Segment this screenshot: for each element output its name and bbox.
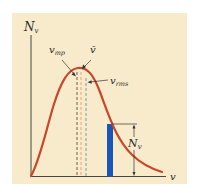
vmp-pointer-arrow: [62, 60, 74, 74]
vrms-pointer-arrow: [90, 80, 108, 82]
distribution-curve: [31, 68, 162, 176]
distribution-plot: Nv v vmp v̄ vrms Nv: [0, 0, 198, 187]
nv-arrowhead-up: [133, 125, 136, 129]
y-axis-label: Nv: [23, 20, 39, 35]
vmp-pointer-arrowhead: [72, 72, 77, 77]
vrms-pointer-arrowhead: [88, 80, 92, 84]
vmp-label: vmp: [49, 44, 66, 57]
nv-arrowhead-down: [133, 172, 136, 176]
vbar-label: v̄: [90, 44, 96, 55]
vbar-pointer-arrow: [84, 60, 91, 67]
vrms-label: vrms: [110, 75, 129, 88]
x-axis-label: v: [170, 171, 176, 182]
nv-bar: [107, 124, 113, 177]
nv-bar-label: Nv: [127, 137, 142, 151]
